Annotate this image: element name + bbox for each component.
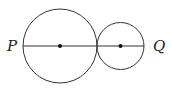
diagram-canvas: P Q [0, 0, 172, 89]
large-circle-center-point [58, 44, 62, 48]
label-p: P [6, 37, 18, 55]
small-circle-center-point [119, 44, 123, 48]
label-q: Q [153, 37, 165, 55]
